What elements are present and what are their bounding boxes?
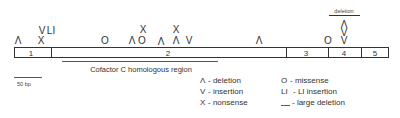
legend-text-li-insertion: - LI insertion bbox=[293, 87, 337, 96]
legend-symbol-nonsense: X bbox=[200, 98, 206, 107]
mutation-marker: V bbox=[39, 25, 46, 36]
legend-symbol-li-insertion: LI bbox=[281, 87, 288, 96]
exon-label-1: 1 bbox=[29, 49, 34, 58]
scale-bar-label: 50 bp bbox=[17, 81, 31, 87]
gene-mutation-diagram: 1 2 3 4 5 Λ X V LI O Λ O X Λ Λ X V Λ O V… bbox=[0, 0, 400, 118]
scale-bar: 50 bp bbox=[14, 78, 42, 88]
mutation-marker: X bbox=[173, 24, 180, 35]
exon-label-5: 5 bbox=[373, 49, 378, 58]
legend-symbol-deletion: Λ bbox=[200, 76, 206, 85]
large-deletion-annotation: deletion bbox=[329, 8, 360, 16]
mutation-marker: Λ bbox=[158, 36, 165, 47]
legend-text-nonsense: - nonsense bbox=[208, 98, 248, 107]
exon-label-4: 4 bbox=[342, 49, 347, 58]
legend-text-insertion: - insertion bbox=[208, 87, 243, 96]
mutation-marker: LI bbox=[47, 25, 55, 36]
exon-label-2: 2 bbox=[166, 49, 171, 58]
cofactor-region: Cofactor C homologous region bbox=[62, 62, 218, 75]
mutation-marker: Λ bbox=[256, 35, 263, 46]
legend-text-large-deletion: - large deletion bbox=[292, 98, 345, 107]
mutation-marker: X bbox=[38, 35, 45, 46]
mutation-marker: V bbox=[186, 35, 193, 46]
mutation-marker: Λ bbox=[341, 19, 348, 30]
legend-symbol-insertion: V bbox=[200, 87, 206, 96]
mutation-marker: O bbox=[101, 35, 109, 46]
legend-symbol-missense: O bbox=[281, 76, 287, 85]
gene-bar-outline bbox=[15, 48, 389, 58]
cofactor-region-label: Cofactor C homologous region bbox=[90, 65, 192, 74]
mutation-marker: Λ bbox=[173, 35, 180, 46]
legend-text-deletion: - deletion bbox=[208, 76, 241, 85]
mutation-marker: Λ bbox=[129, 35, 136, 46]
legend-text-missense: - missense bbox=[290, 76, 329, 85]
mutation-marker: O bbox=[324, 35, 332, 46]
exon-label-3: 3 bbox=[304, 49, 309, 58]
mutation-markers: Λ X V LI O Λ O X Λ Λ X V Λ O V V Λ bbox=[15, 19, 348, 47]
large-deletion-label: deletion bbox=[334, 8, 353, 14]
mutation-marker: X bbox=[140, 24, 147, 35]
gene-bar: 1 2 3 4 5 bbox=[15, 48, 389, 59]
mutation-marker: O bbox=[138, 35, 146, 46]
legend: Λ - deletion V - insertion X - nonsense … bbox=[200, 76, 345, 107]
mutation-marker: Λ bbox=[15, 35, 22, 46]
